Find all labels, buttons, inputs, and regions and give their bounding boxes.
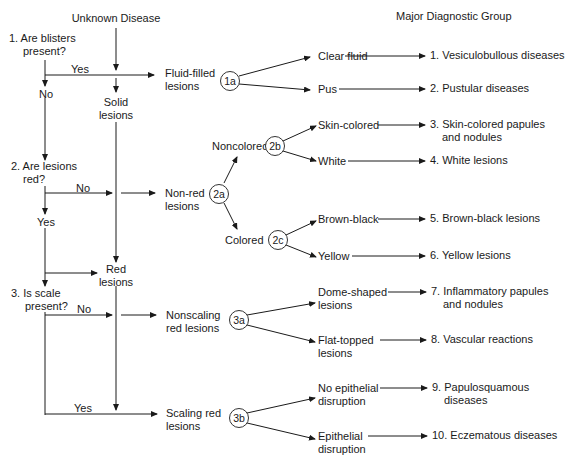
group-5-brown-black-lesions: 5. Brown-black lesions <box>430 212 540 225</box>
node-fluid-filled-line2: lesions <box>165 80 215 93</box>
criterion-epithelial-line2: disruption <box>318 443 366 456</box>
question-3-line2: present? <box>11 300 68 313</box>
column-header-major-diagnostic-group: Major Diagnostic Group <box>396 10 512 23</box>
group-8-vascular-reactions: 8. Vascular reactions <box>431 333 533 346</box>
node-nonscaling-line2: red lesions <box>166 322 220 335</box>
node-fluid-filled-lesions: Fluid-filled lesions <box>165 67 215 93</box>
criterion-dome-shaped-line2: lesions <box>318 299 387 312</box>
q1-yes-label: Yes <box>71 63 89 76</box>
node-scaling-line1: Scaling red <box>166 407 221 420</box>
node-solid-line1: Solid <box>96 96 136 109</box>
question-2-line1: 2. Are lesions <box>11 160 77 173</box>
group-9-line1: 9. Papulosquamous <box>432 381 529 394</box>
criterion-epithelial-line1: Epithelial <box>318 430 366 443</box>
group-7-line2: and nodules <box>431 298 548 311</box>
branch-point-3b: 3b <box>229 408 249 428</box>
criterion-yellow: Yellow <box>318 250 349 263</box>
node-colored: Colored <box>225 234 264 247</box>
group-10-eczematous: 10. Eczematous diseases <box>432 429 557 442</box>
q2-no-label: No <box>76 182 90 195</box>
criterion-dome-shaped: Dome-shaped lesions <box>318 286 387 312</box>
group-3-line2: and nodules <box>430 131 545 144</box>
question-1-line1: 1. Are blisters <box>9 32 76 45</box>
node-red-line1: Red <box>96 263 136 276</box>
criterion-no-epithelial-disruption: No epithelial disruption <box>318 382 379 408</box>
criterion-clear-fluid: Clear fluid <box>318 50 368 63</box>
node-red-lesions: Red lesions <box>96 263 136 289</box>
q3-yes-label: Yes <box>74 402 92 415</box>
node-non-red-line2: lesions <box>165 200 205 213</box>
node-non-red-lesions: Non-red lesions <box>165 187 205 213</box>
node-scaling-red-lesions: Scaling red lesions <box>166 407 221 433</box>
node-solid-lesions: Solid lesions <box>96 96 136 122</box>
start-node-unknown-disease: Unknown Disease <box>70 12 162 25</box>
q3-no-label: No <box>77 303 91 316</box>
group-3-skin-colored-papules: 3. Skin-colored papules and nodules <box>430 118 545 144</box>
node-fluid-filled-line1: Fluid-filled <box>165 67 215 80</box>
question-1-line2: present? <box>9 45 76 58</box>
question-3: 3. Is scale present? <box>11 287 68 313</box>
branch-point-2a: 2a <box>209 184 229 204</box>
question-3-line1: 3. Is scale <box>11 287 68 300</box>
q1-no-label: No <box>39 88 53 101</box>
criterion-skin-colored: Skin-colored <box>318 119 379 132</box>
node-non-red-line1: Non-red <box>165 187 205 200</box>
criterion-flat-topped-line1: Flat-topped <box>318 334 374 347</box>
node-red-line2: lesions <box>96 276 136 289</box>
criterion-dome-shaped-line1: Dome-shaped <box>318 286 387 299</box>
group-7-line1: 7. Inflammatory papules <box>431 285 548 298</box>
branch-point-3a: 3a <box>229 310 249 330</box>
node-nonscaling-line1: Nonscaling <box>166 309 220 322</box>
node-solid-line2: lesions <box>96 109 136 122</box>
question-1: 1. Are blisters present? <box>9 32 76 58</box>
criterion-no-epithelial-line1: No epithelial <box>318 382 379 395</box>
group-6-yellow-lesions: 6. Yellow lesions <box>430 249 511 262</box>
group-7-inflammatory-papules: 7. Inflammatory papules and nodules <box>431 285 548 311</box>
node-noncolored: Noncolored <box>212 140 268 153</box>
branch-point-2b: 2b <box>265 136 285 156</box>
criterion-pus: Pus <box>318 83 337 96</box>
q2-yes-label: Yes <box>37 216 55 229</box>
group-2-pustular: 2. Pustular diseases <box>430 82 529 95</box>
group-9-papulosquamous: 9. Papulosquamous diseases <box>432 381 529 407</box>
criterion-white: White <box>318 155 346 168</box>
node-nonscaling-red-lesions: Nonscaling red lesions <box>166 309 220 335</box>
node-scaling-line2: lesions <box>166 420 221 433</box>
group-3-line1: 3. Skin-colored papules <box>430 118 545 131</box>
criterion-epithelial-disruption: Epithelial disruption <box>318 430 366 456</box>
group-4-white-lesions: 4. White lesions <box>430 154 508 167</box>
question-2-line2: red? <box>11 173 77 186</box>
question-2: 2. Are lesions red? <box>11 160 77 186</box>
criterion-flat-topped-line2: lesions <box>318 347 374 360</box>
criterion-flat-topped: Flat-topped lesions <box>318 334 374 360</box>
criterion-brown-black: Brown-black <box>318 213 379 226</box>
branch-point-2c: 2c <box>268 230 288 250</box>
branch-point-1a: 1a <box>220 71 240 91</box>
criterion-no-epithelial-line2: disruption <box>318 395 379 408</box>
group-1-vesiculobullous: 1. Vesiculobullous diseases <box>430 49 565 62</box>
group-9-line2: diseases <box>432 394 529 407</box>
